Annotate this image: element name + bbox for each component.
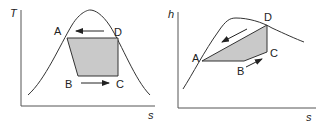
hs-cycle-area	[202, 25, 267, 61]
hs-point-d-label: D	[264, 11, 272, 23]
ts-point-c-label: C	[116, 78, 124, 90]
hs-point-c-label: C	[270, 47, 278, 59]
ts-y-axis-label: T	[10, 7, 18, 19]
hs-point-b-label: B	[237, 65, 244, 77]
ts-cycle-area	[67, 38, 118, 76]
hs-point-a-label: A	[192, 52, 200, 64]
hs-y-axis-label: h	[168, 8, 174, 20]
ts-diagram: T s A D B C	[10, 7, 155, 121]
ts-point-d-label: D	[114, 26, 122, 38]
ts-x-axis-label: s	[148, 109, 154, 121]
hs-arrow-b-to-c	[246, 59, 262, 67]
hs-x-axis-label: s	[306, 111, 312, 123]
hs-diagram: h s A D B C	[168, 8, 316, 123]
ts-point-b-label: B	[65, 78, 72, 90]
diagram-canvas: T s A D B C h s A D B C	[0, 0, 324, 127]
ts-point-a-label: A	[54, 25, 62, 37]
